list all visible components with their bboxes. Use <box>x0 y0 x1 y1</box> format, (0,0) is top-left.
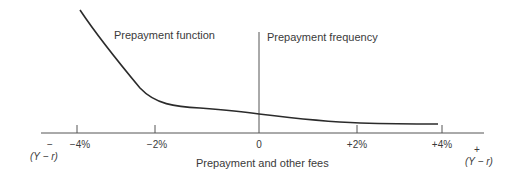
tick-label-minus2: −2% <box>147 139 167 150</box>
x-axis-title: Prepayment and other fees <box>196 157 329 169</box>
tick-label-plus4: +4% <box>432 139 452 150</box>
tick-label-zero: 0 <box>256 139 262 150</box>
chart-canvas <box>0 0 520 179</box>
prepayment-frequency-label: Prepayment frequency <box>267 31 378 43</box>
left-variable-label: (Y − r) <box>30 151 58 162</box>
left-sign-label: − <box>47 139 53 150</box>
tick-label-plus2: +2% <box>347 139 367 150</box>
tick-label-minus4: −4% <box>70 139 90 150</box>
right-variable-label: (Y − r) <box>465 156 493 167</box>
prepayment-function-label: Prepayment function <box>114 29 215 41</box>
right-sign-label: + <box>474 144 480 155</box>
